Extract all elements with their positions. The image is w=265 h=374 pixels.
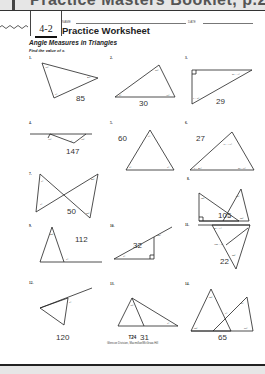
problem-14-figure: 50° 55° x° 60° 65° bbox=[189, 287, 255, 333]
svg-text:3x°: 3x° bbox=[166, 94, 170, 97]
svg-text:x°: x° bbox=[129, 166, 131, 169]
problem-1-figure: 35° 45° x° bbox=[40, 61, 100, 101]
svg-text:x°: x° bbox=[40, 203, 42, 206]
problem-9-answer: 112 bbox=[75, 235, 88, 244]
svg-text:x°: x° bbox=[69, 301, 71, 304]
instructions: Find the value of x. bbox=[29, 48, 65, 53]
svg-text:x + 5°: x + 5° bbox=[193, 97, 199, 100]
booklet-title: Practice Masters Booklet, p.24 bbox=[30, 0, 265, 9]
svg-text:40°: 40° bbox=[91, 178, 95, 181]
svg-text:80°: 80° bbox=[86, 212, 90, 215]
problem-9-number: 9. bbox=[29, 224, 32, 228]
problem-8-answer: 105 bbox=[218, 211, 231, 220]
page-number: T24 bbox=[0, 335, 265, 340]
svg-text:24°: 24° bbox=[232, 254, 236, 257]
svg-text:x°: x° bbox=[70, 140, 72, 143]
bottom-band bbox=[0, 366, 265, 374]
svg-text:x°: x° bbox=[148, 135, 150, 138]
problem-1-number: 1. bbox=[29, 56, 32, 60]
svg-text:4x − 7°: 4x − 7° bbox=[214, 227, 222, 230]
svg-text:44°: 44° bbox=[50, 233, 54, 236]
problem-10-figure: 122° x° bbox=[112, 225, 174, 263]
svg-text:x°: x° bbox=[55, 93, 57, 96]
problem-5-figure: x° x° x° bbox=[124, 128, 176, 173]
problem-13-figure: 38° x° bbox=[116, 296, 180, 328]
problem-12-number: 12. bbox=[29, 281, 33, 285]
problem-8-number: 8. bbox=[187, 177, 190, 181]
problem-12-figure: x° bbox=[38, 286, 94, 328]
svg-text:55°: 55° bbox=[240, 302, 244, 305]
date-line[interactable] bbox=[203, 23, 253, 24]
problem-6-number: 6. bbox=[185, 121, 188, 125]
problem-13-number: 13. bbox=[110, 282, 114, 286]
problem-3-number: 3. bbox=[185, 56, 188, 60]
svg-text:18°: 18° bbox=[81, 138, 85, 141]
svg-text:3x − 17°: 3x − 17° bbox=[223, 143, 232, 146]
problem-4-figure: 15° x° 18° bbox=[30, 132, 92, 146]
svg-text:55°: 55° bbox=[155, 69, 159, 72]
svg-text:100 − x°: 100 − x° bbox=[214, 243, 223, 246]
svg-text:2x − 5°: 2x − 5° bbox=[238, 167, 246, 170]
svg-text:38°: 38° bbox=[130, 304, 134, 307]
header-bar-mark bbox=[12, 0, 15, 10]
worksheet-title: Practice Worksheet bbox=[62, 25, 150, 36]
problem-4-answer: 147 bbox=[66, 147, 79, 156]
worksheet-subtitle: Angle Measures in Triangles bbox=[29, 39, 117, 46]
problem-11-number: 11. bbox=[185, 223, 189, 227]
problem-4-number: 4. bbox=[29, 121, 32, 125]
wavy-line-decoration bbox=[0, 24, 30, 30]
svg-text:55°: 55° bbox=[236, 195, 240, 198]
svg-text:35°: 35° bbox=[45, 66, 49, 69]
svg-text:x°: x° bbox=[119, 94, 121, 97]
svg-text:50°: 50° bbox=[209, 296, 213, 299]
problem-9-figure: 44° x° bbox=[36, 225, 104, 265]
svg-text:80°: 80° bbox=[240, 217, 244, 220]
svg-text:60°: 60° bbox=[194, 327, 198, 330]
svg-text:122°: 122° bbox=[156, 234, 161, 237]
problem-11-answer: 22 bbox=[220, 257, 229, 266]
worksheet-page: 4-2 NAME DATE Practice Worksheet Angle M… bbox=[0, 11, 265, 364]
svg-text:50°: 50° bbox=[201, 197, 205, 200]
problem-3-answer: 29 bbox=[216, 97, 225, 106]
name-line[interactable] bbox=[76, 23, 186, 24]
problem-1-answer: 85 bbox=[76, 94, 85, 103]
problem-10-answer: 32 bbox=[133, 241, 142, 250]
svg-text:x°: x° bbox=[123, 255, 125, 258]
problem-6-answer: 27 bbox=[196, 134, 205, 143]
problem-14-number: 14. bbox=[185, 282, 189, 286]
problem-2-figure: 55° x° 3x° bbox=[113, 63, 178, 103]
svg-text:2x − 3°: 2x − 3° bbox=[232, 73, 240, 76]
svg-text:x°: x° bbox=[167, 322, 169, 325]
problem-2-answer: 30 bbox=[139, 99, 148, 108]
booklet-header-band: Practice Masters Booklet, p.24 bbox=[0, 0, 265, 11]
lesson-number: 4-2 bbox=[31, 23, 61, 34]
svg-text:x°: x° bbox=[225, 312, 227, 315]
problem-7-answer: 50 bbox=[67, 207, 76, 216]
name-label: NAME bbox=[62, 20, 71, 24]
problem-5-answer: 60 bbox=[118, 134, 127, 143]
problem-5-number: 5. bbox=[110, 121, 113, 125]
svg-text:65°: 65° bbox=[244, 327, 248, 330]
svg-text:x°: x° bbox=[167, 166, 169, 169]
problem-7-number: 7. bbox=[29, 172, 32, 176]
svg-text:x°: x° bbox=[66, 258, 68, 261]
lesson-underline bbox=[35, 36, 57, 38]
svg-text:x°: x° bbox=[41, 180, 43, 183]
problem-2-number: 2. bbox=[110, 56, 113, 60]
svg-text:15°: 15° bbox=[48, 138, 52, 141]
svg-text:x + 46°: x + 46° bbox=[194, 167, 202, 170]
publisher-credit: Glencoe Division, Macmillan/McGraw-Hill bbox=[0, 341, 265, 345]
date-label: DATE bbox=[188, 20, 196, 24]
svg-text:45°: 45° bbox=[87, 76, 91, 79]
lesson-number-box: 4-2 bbox=[30, 11, 62, 36]
